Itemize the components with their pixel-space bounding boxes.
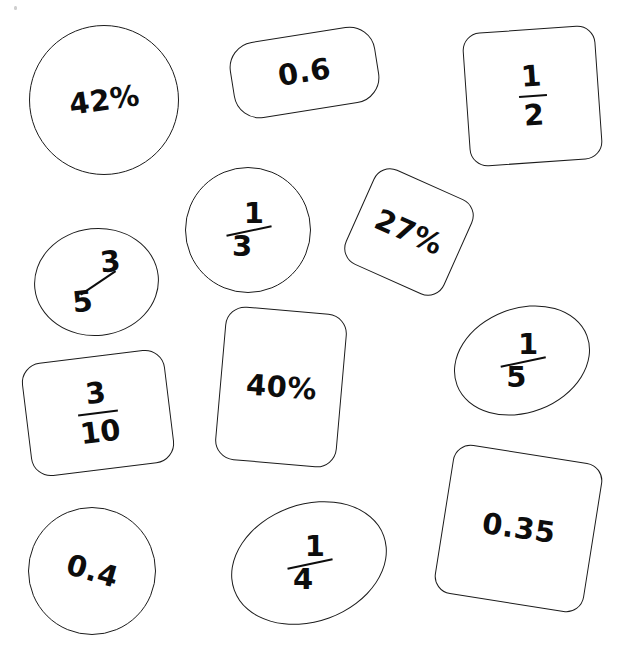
card-label-42-percent: 42% [67, 81, 141, 120]
fraction-denominator: 4 [293, 565, 313, 594]
fraction-numerator: 3 [84, 378, 108, 409]
card-1-5[interactable]: 1 5 [438, 286, 606, 434]
card-label-0-4: 0.4 [63, 550, 122, 592]
fraction-denominator: 5 [506, 363, 526, 392]
fraction-denominator: 3 [232, 232, 252, 261]
card-label-27-percent: 27% [371, 204, 448, 259]
card-label-0-6: 0.6 [276, 54, 333, 91]
card-0-6[interactable]: 0.6 [226, 23, 383, 122]
card-42-percent[interactable]: 42% [29, 25, 179, 175]
card-1-4[interactable]: 1 4 [214, 480, 405, 646]
card-0-35[interactable]: 0.35 [432, 442, 605, 615]
card-1-2[interactable]: 1 2 [461, 25, 603, 168]
card-1-3[interactable]: 1 3 [185, 167, 311, 293]
card-label-1-4: 1 4 [281, 532, 337, 594]
worksheet-canvas: 42% 0.6 1 2 3 5 1 3 27% 3 [0, 0, 643, 667]
card-label-1-5: 1 5 [494, 330, 550, 392]
card-label-3-5: 3 5 [65, 248, 127, 316]
card-3-5[interactable]: 3 5 [29, 222, 165, 342]
paper-speck [14, 6, 17, 10]
card-40-percent[interactable]: 40% [214, 305, 349, 469]
fraction-numerator: 1 [244, 199, 264, 228]
fraction-denominator: 10 [79, 416, 123, 450]
card-3-10[interactable]: 3 10 [20, 348, 177, 479]
card-label-1-3: 1 3 [220, 199, 276, 261]
fraction-numerator: 1 [305, 532, 325, 561]
card-label-40-percent: 40% [245, 370, 318, 404]
fraction-numerator: 1 [520, 61, 542, 91]
card-label-3-10: 3 10 [74, 377, 122, 449]
card-0-4[interactable]: 0.4 [28, 507, 156, 635]
card-label-1-2: 1 2 [516, 61, 549, 131]
fraction-numerator: 1 [518, 330, 538, 359]
card-27-percent[interactable]: 27% [339, 163, 480, 302]
fraction-denominator: 2 [523, 100, 545, 130]
card-label-0-35: 0.35 [480, 509, 557, 548]
fraction-denominator: 5 [71, 287, 94, 318]
